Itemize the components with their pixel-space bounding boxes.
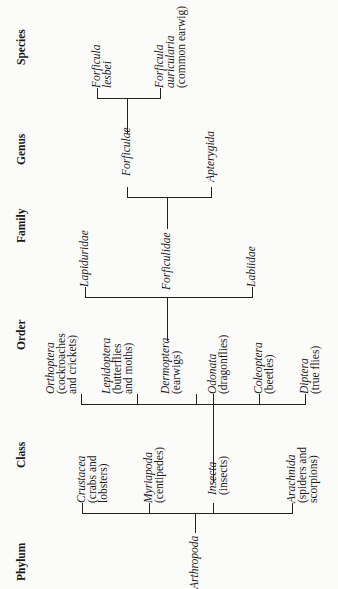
genus-bracket [127, 197, 212, 198]
genus-forficulae: Forficulae [121, 127, 132, 176]
family-forficulidae: Forficulidae [161, 233, 172, 291]
class-tick-insecta [213, 503, 214, 514]
species-bracket [97, 98, 161, 99]
forficulae-connector [127, 98, 128, 134]
header-phylum: Phylum [15, 543, 27, 581]
phylum-connector [195, 513, 196, 533]
species-tick-lesbei [97, 88, 98, 99]
dermoptera-connector [167, 297, 168, 341]
header-class: Class [15, 442, 27, 468]
order-coleoptera: Coleoptera (beetles) [253, 342, 275, 394]
phylum-arthropoda: Arthropoda [189, 536, 200, 589]
order-orthoptera: Orthoptera (cockroaches and crickets) [45, 333, 78, 394]
order-tick-coleoptera [259, 394, 260, 405]
class-myriapoda: Myriapoda (centipedes) [143, 447, 165, 503]
order-bracket [81, 404, 306, 405]
header-family: Family [15, 209, 27, 244]
phylum-name: Arthropoda [188, 536, 200, 589]
genus-tick-apterygida [211, 187, 212, 198]
family-lapiduridae: Lapiduridae [79, 230, 90, 287]
insecta-connector [213, 404, 214, 482]
genus-tick-forficulae [127, 187, 128, 198]
family-tick-lapiduridae [85, 287, 86, 298]
header-species: Species [15, 29, 27, 65]
forficulidae-connector [167, 197, 168, 229]
class-tick-arachnida [292, 503, 293, 514]
class-tick-crustacea [82, 503, 83, 514]
class-insecta: Insecta (insects) [207, 456, 229, 495]
family-labiidae: Labiidae [246, 246, 257, 287]
header-genus: Genus [15, 134, 27, 165]
order-diptera: Diptera (true flies) [299, 346, 321, 394]
order-odonata: Odonata (dragonflies) [207, 335, 229, 394]
taxonomy-diagram: Species Genus Family Order Class Phylum … [0, 0, 338, 589]
class-crustacea: Crustacea (crabs and lobsters) [76, 455, 109, 503]
family-bracket [85, 297, 253, 298]
order-tick-odonata [213, 394, 214, 405]
species-forficula-lesbei: Forficula lesbei [91, 45, 113, 88]
header-order: Order [15, 319, 27, 350]
species-tick-auricularia [160, 88, 161, 99]
order-tick-diptera [305, 394, 306, 405]
order-dermoptera: Dermoptera (earwigs) [160, 338, 182, 394]
order-tick-lepidoptera [137, 394, 138, 405]
class-tick-myriapoda [149, 503, 150, 514]
genus-apterygida: Apterygida [205, 131, 216, 182]
order-tick-dermoptera [196, 394, 197, 405]
family-tick-labiidae [252, 287, 253, 298]
order-tick-orthoptera [81, 394, 82, 405]
order-lepidoptera: Lepidoptera (butterflies and moths) [101, 338, 134, 394]
species-forficula-auricularia: Forficula auricularia (common earwig) [154, 6, 187, 88]
class-arachnida: Arachnida (spiders and scorpions) [286, 447, 319, 503]
class-bracket [82, 513, 293, 514]
